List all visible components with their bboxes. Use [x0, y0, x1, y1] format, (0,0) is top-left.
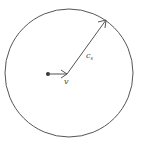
- wavefront-circle: [5, 9, 133, 137]
- doppler-diagram: v cs: [0, 0, 141, 147]
- sound-speed-label: cs: [86, 51, 93, 61]
- velocity-label: v: [64, 77, 69, 86]
- sound-speed-arrow: [67, 20, 106, 74]
